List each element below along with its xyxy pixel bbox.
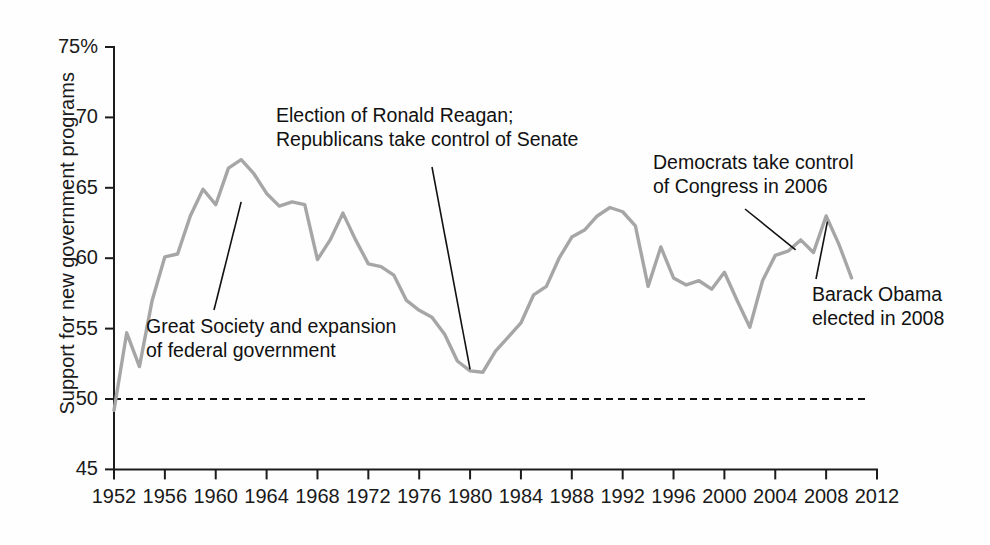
chart-plot-area [0,0,990,545]
annotation-reagan: Election of Ronald Reagan; Republicans t… [276,104,578,152]
annotation-reagan-line1: Election of Ronald Reagan; [276,104,513,126]
x-tick-label: 2012 [837,486,917,506]
y-tick-label: 65 [6,177,98,197]
leader-line-democrats-congress [745,209,796,250]
annotation-reagan-line2: Republicans take control of Senate [276,128,578,152]
y-tick-label: 50 [6,388,98,408]
annotation-obama-line2: elected in 2008 [812,307,944,331]
annotation-obama-line1: Barack Obama [812,283,942,305]
annotation-democrats-line2: of Congress in 2006 [653,175,854,199]
annotation-democrats-congress: Democrats take control of Congress in 20… [653,151,854,199]
y-tick-label: 75% [6,36,98,56]
annotation-great-society: Great Society and expansion of federal g… [146,315,396,363]
leader-line-great-society [214,202,241,310]
y-tick-label: 45 [6,458,98,478]
chart-figure: Support for new government programs 75%7… [0,0,990,545]
y-tick-label: 55 [6,318,98,338]
y-tick-label: 60 [6,247,98,267]
annotation-great-society-line1: Great Society and expansion [146,315,396,337]
annotation-democrats-line1: Democrats take control [653,151,854,173]
annotation-great-society-line2: of federal government [146,339,396,363]
y-tick-label: 70 [6,106,98,126]
leader-line-reagan [432,167,470,369]
annotation-obama: Barack Obama elected in 2008 [812,283,944,331]
